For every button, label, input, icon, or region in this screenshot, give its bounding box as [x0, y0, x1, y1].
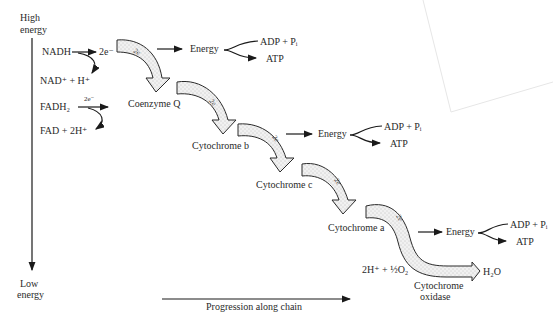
paper-edge — [423, 0, 553, 112]
atp-1: ATP — [266, 53, 284, 64]
energy-1-curve-bottom — [224, 50, 256, 58]
nadh-electrons: 2e⁻ — [99, 46, 114, 57]
carrier-cytochrome-oxidase-2: oxidase — [420, 291, 451, 302]
energy-3-curve-bottom — [478, 233, 506, 241]
energy-2: Energy — [318, 128, 347, 139]
final-product: H₂O — [483, 266, 501, 277]
adp-2: ADP + Pᵢ — [384, 121, 422, 132]
carrier-cytochrome-c: Cytochrome c — [256, 179, 313, 190]
adp-1: ADP + Pᵢ — [260, 36, 298, 47]
progression-label: Progression along chain — [206, 301, 302, 312]
energy-2-curve-top — [350, 126, 382, 135]
energy-3: Energy — [446, 226, 475, 237]
adp-3: ADP + Pᵢ — [510, 219, 548, 230]
electron-transfer-arrow-1 — [117, 40, 170, 92]
carrier-cytochrome-b: Cytochrome b — [192, 140, 249, 151]
nadh-curve-arrow — [78, 53, 95, 73]
final-reactant: 2H⁺ + ½O₂ — [362, 264, 408, 275]
fadh2-curve-arrow — [88, 108, 102, 129]
fadh2-electrons: 2e⁻ — [84, 95, 95, 103]
fad-product: FAD + 2H⁺ — [40, 125, 87, 136]
energy-2-curve-bottom — [350, 135, 380, 143]
nadh-label: NADH — [42, 46, 71, 57]
electron-transfer-arrow-2 — [177, 81, 236, 134]
carrier-cytochrome-a: Cytochrome a — [328, 222, 385, 233]
energy-1: Energy — [190, 43, 219, 54]
carrier-coenzyme-q: Coenzyme Q — [128, 98, 181, 109]
high-energy-label: High — [20, 12, 40, 23]
energy-1-curve-top — [224, 41, 258, 50]
carrier-cytochrome-oxidase: Cytochrome — [414, 280, 464, 291]
atp-3: ATP — [516, 236, 534, 247]
energy-3-curve-top — [478, 224, 508, 233]
low-energy-label: Low — [20, 278, 39, 289]
high-energy-label-2: energy — [20, 24, 47, 35]
electron-transport-chain-diagram: High energy Low energy Progression along… — [0, 0, 553, 326]
fadh2-label: FADH₂ — [40, 101, 70, 112]
low-energy-label-2: energy — [17, 289, 44, 300]
nad-product: NAD⁺ + H⁺ — [40, 75, 90, 86]
atp-2: ATP — [390, 138, 408, 149]
